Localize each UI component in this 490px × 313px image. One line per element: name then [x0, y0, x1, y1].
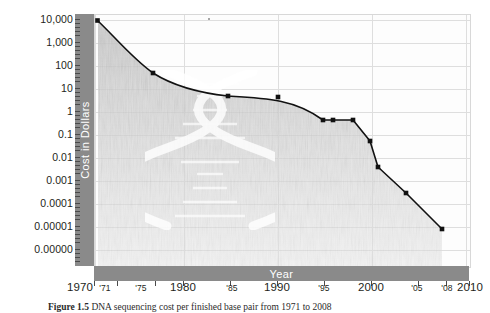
x-tick-label: 1990 [264, 281, 290, 293]
y-axis-title: Cost in Dollars [79, 101, 91, 179]
y-tick-label: 10,000 [0, 14, 73, 25]
data-series-line [95, 15, 470, 267]
y-tick-label: 0.01 [0, 152, 73, 163]
figure-caption-label: Figure 1.5 [48, 302, 89, 312]
x-tick-label: 1970 [67, 281, 93, 293]
x-tick-label: 2010 [457, 281, 483, 293]
y-tick-label: 0.00000 [0, 244, 73, 255]
y-tick-label: 0.0001 [0, 198, 73, 209]
figure-caption-text: DNA sequencing cost per finished base pa… [91, 302, 331, 312]
figure-caption: Figure 1.5 DNA sequencing cost per finis… [48, 302, 448, 312]
figure-dna-sequencing-cost: 10,000 1,000 100 10 1 0.1 0.01 0.001 0.0… [0, 0, 490, 313]
y-tick-label: 0.001 [0, 175, 73, 186]
x-tick-label: '75 [135, 283, 146, 293]
x-tick-label: '71 [99, 283, 110, 293]
y-tick-label: 0.00001 [0, 221, 73, 232]
y-tick-label: 1,000 [0, 37, 73, 48]
x-tick-label: 2000 [358, 281, 384, 293]
x-tick-label: '08 [441, 283, 452, 293]
data-point-markers [95, 18, 444, 231]
x-tick-label: 1980 [170, 281, 196, 293]
x-tick-label: '95 [318, 283, 329, 293]
plot-area [94, 14, 471, 268]
y-tick-label: 100 [0, 60, 73, 71]
y-tick-label: 1 [0, 106, 73, 117]
x-axis-title: Year [270, 268, 294, 280]
y-axis-band: Cost in Dollars [75, 14, 94, 266]
x-axis-band: Year [94, 266, 469, 281]
x-tick-label: '05 [411, 283, 422, 293]
y-tick-label: 0.1 [0, 129, 73, 140]
x-tick-label: '85 [226, 283, 237, 293]
x-axis-tick-labels: 1970 '71 '75 1980 '85 1990 '95 2000 '05 … [0, 281, 490, 299]
y-tick-label: 10 [0, 83, 73, 94]
y-axis-tick-labels: 10,000 1,000 100 10 1 0.1 0.01 0.001 0.0… [0, 0, 73, 270]
